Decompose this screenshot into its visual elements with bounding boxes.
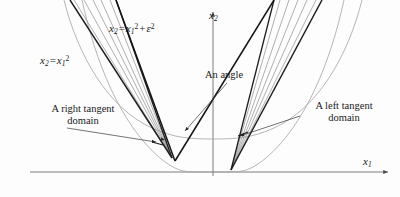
y-axis-label-sub: 2 [214,14,218,23]
right-tangent-line2: domain [27,115,139,127]
left-fan-line [231,0,316,170]
angle-label-text: An angle [205,69,243,80]
angle-leader [185,83,227,131]
x-axis-label-sub: 1 [368,160,372,169]
left-tangent-outer-edge [231,0,322,170]
right-tangent-leader [67,128,156,142]
outer-eq-epsilon-sup: 2 [151,22,155,31]
inner-eq-rhs-sup: 2 [65,54,69,63]
inner-eq-equals: = [49,54,57,66]
figure-canvas: x2=x12+ε2 x2=x12 An angle A right tangen… [0,0,400,197]
outer-eq-equals: = [118,22,126,34]
left-tangent-fan [231,0,316,170]
outer-parabola-equation-label: x2=x12+ε2 [109,22,155,36]
left-fan-line [231,0,307,170]
x-axis-label: x1 [363,155,372,169]
left-tangent-line1: A left tangent [296,100,392,112]
diagram-svg [0,0,400,197]
right-tangent-line1: A right tangent [27,103,139,115]
right-tangent-domain-label: A right tangent domain [27,103,139,127]
left-tangent-line2: domain [296,112,392,124]
y-axis-label: x2 [209,9,218,23]
left-tangent-domain-label: A left tangent domain [296,100,392,124]
inner-parabola-equation-label: x2=x12 [40,54,69,68]
left-tangent-bold-edges [231,0,322,170]
left-tangent-inner-edge [231,0,274,170]
left-tangent-leader [240,116,300,136]
angle-label: An angle [205,69,243,81]
left-fan-line [231,0,298,170]
left-fan-line [231,0,280,170]
